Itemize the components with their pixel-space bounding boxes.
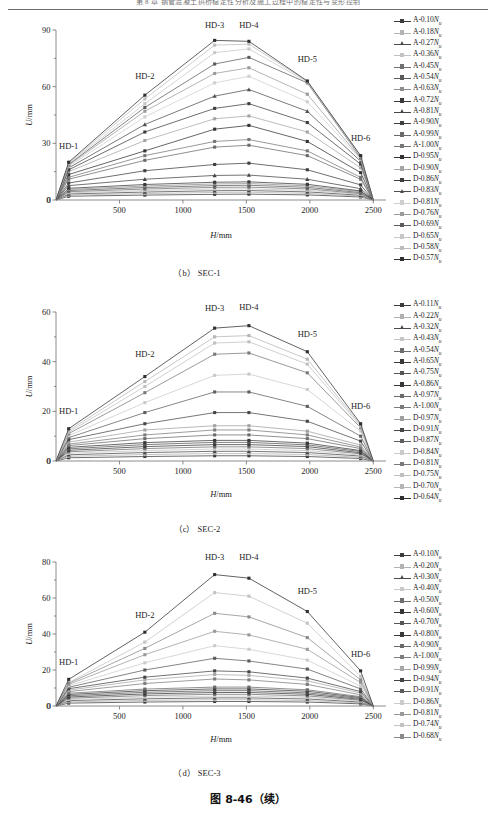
- legend-item[interactable]: A-0.54Nu: [394, 345, 494, 356]
- x-tick-label: 500: [113, 205, 126, 215]
- legend-item[interactable]: D-0.95Nu: [394, 152, 494, 163]
- legend-item[interactable]: A-0.90Nu: [394, 118, 494, 129]
- legend-item[interactable]: A-0.11Nu: [394, 300, 494, 311]
- legend-item[interactable]: A-0.36Nu: [394, 50, 494, 61]
- plot-area-sec-3: 02040608050010001500200025000HD-1HD-2HD-…: [14, 548, 394, 776]
- legend-item[interactable]: A-0.54Nu: [394, 73, 494, 84]
- y-axis-title: U/mm: [24, 104, 34, 126]
- legend-item[interactable]: A-0.10Nu: [394, 550, 494, 561]
- point-label-hd-5: HD-5: [298, 329, 317, 339]
- legend-item[interactable]: D-0.81Nu: [394, 459, 494, 470]
- series-line: [56, 66, 373, 200]
- legend-item[interactable]: D-0.65Nu: [394, 232, 494, 243]
- legend-marker-icon: [394, 653, 411, 662]
- legend-item[interactable]: A-0.50Nu: [394, 595, 494, 606]
- point-label-hd-4: HD-4: [239, 20, 259, 30]
- legend-item[interactable]: A-0.72Nu: [394, 95, 494, 106]
- legend-marker-icon: [394, 63, 411, 72]
- x-tick-label: 1500: [238, 466, 255, 476]
- legend-item[interactable]: A-0.60Nu: [394, 607, 494, 618]
- legend-marker-icon: [394, 119, 411, 128]
- axes: [56, 30, 386, 200]
- legend-marker-icon: [394, 74, 411, 83]
- legend-marker-icon: [394, 471, 411, 480]
- y-axis-title: U/mm: [24, 623, 34, 645]
- legend-item[interactable]: A-0.75Nu: [394, 368, 494, 379]
- running-head: 第 8 章 钢管混凝土拱桥稳定性分析及施工过程中的稳定性与变形控制: [0, 0, 496, 12]
- legend-item[interactable]: D-0.76Nu: [394, 209, 494, 220]
- legend-item[interactable]: A-0.97Nu: [394, 391, 494, 402]
- point-label-hd-3: HD-3: [205, 20, 224, 30]
- legend-item[interactable]: A-0.81Nu: [394, 107, 494, 118]
- legend-marker-icon: [394, 437, 411, 446]
- legend-item[interactable]: A-0.43Nu: [394, 334, 494, 345]
- legend-item[interactable]: A-0.86Nu: [394, 379, 494, 390]
- legend-marker-icon: [394, 642, 411, 651]
- legend-item[interactable]: D-0.94Nu: [394, 675, 494, 686]
- y-tick-label: 40: [42, 629, 51, 639]
- legend-item[interactable]: A-0.10Nu: [394, 16, 494, 27]
- legend-marker-icon: [394, 221, 411, 230]
- chart-svg-b: 030609050010001500200025000HD-1HD-2HD-3H…: [14, 14, 394, 244]
- legend-item[interactable]: D-0.86Nu: [394, 175, 494, 186]
- legend-item[interactable]: D-0.75Nu: [394, 470, 494, 481]
- legend-item[interactable]: D-0.87Nu: [394, 436, 494, 447]
- legend-item[interactable]: A-0.99Nu: [394, 129, 494, 140]
- legend-item[interactable]: A-0.40Nu: [394, 584, 494, 595]
- point-label-hd-3: HD-3: [205, 552, 224, 562]
- legend-item[interactable]: D-0.99Nu: [394, 663, 494, 674]
- legend-item[interactable]: D-0.68Nu: [394, 732, 494, 743]
- x-axis-title: H/mm: [209, 230, 232, 240]
- legend-item[interactable]: D-0.86Nu: [394, 697, 494, 708]
- legend-item[interactable]: D-0.83Nu: [394, 186, 494, 197]
- figure-number: 图 8-46（续）: [0, 790, 496, 806]
- legend-list: A-0.11NuA-0.22NuA-0.32NuA-0.43NuA-0.54Nu…: [394, 300, 494, 504]
- legend-item[interactable]: A-0.80Nu: [394, 629, 494, 640]
- chart-block-sec-1: 030609050010001500200025000HD-1HD-2HD-3H…: [0, 14, 496, 298]
- legend-item[interactable]: A-0.18Nu: [394, 27, 494, 38]
- legend-item[interactable]: A-0.32Nu: [394, 323, 494, 334]
- legend-item[interactable]: A-0.63Nu: [394, 84, 494, 95]
- legend-marker-icon: [394, 665, 411, 674]
- legend-item[interactable]: D-0.81Nu: [394, 198, 494, 209]
- legend-item[interactable]: A-0.65Nu: [394, 357, 494, 368]
- legend-marker-icon: [394, 494, 411, 503]
- x-tick-label: 1000: [174, 466, 191, 476]
- legend-item[interactable]: D-0.57Nu: [394, 254, 494, 265]
- legend-item[interactable]: A-1.00Nu: [394, 652, 494, 663]
- y-tick-label: 60: [42, 593, 51, 603]
- legend-item[interactable]: D-0.91Nu: [394, 686, 494, 697]
- legend-item[interactable]: A-1.00Nu: [394, 402, 494, 413]
- legend-item[interactable]: D-0.90Nu: [394, 163, 494, 174]
- legend-item[interactable]: A-0.27Nu: [394, 39, 494, 50]
- legend-item[interactable]: A-0.30Nu: [394, 573, 494, 584]
- running-head-rule: [8, 9, 488, 10]
- legend-item[interactable]: D-0.84Nu: [394, 447, 494, 458]
- legend-marker-icon: [394, 108, 411, 117]
- legend-item[interactable]: A-0.45Nu: [394, 61, 494, 72]
- legend-item[interactable]: D-0.58Nu: [394, 243, 494, 254]
- legend-item[interactable]: A-1.00Nu: [394, 141, 494, 152]
- legend-item[interactable]: D-0.74Nu: [394, 720, 494, 731]
- legend-item[interactable]: D-0.81Nu: [394, 709, 494, 720]
- legend-marker-icon: [394, 676, 411, 685]
- legend-sec-3: A-0.10NuA-0.20NuA-0.30NuA-0.40NuA-0.50Nu…: [394, 548, 494, 776]
- legend-item[interactable]: A-0.22Nu: [394, 311, 494, 322]
- legend-label: D-0.57Nu: [413, 252, 441, 267]
- legend-item[interactable]: A-0.70Nu: [394, 618, 494, 629]
- legend-item[interactable]: D-0.91Nu: [394, 425, 494, 436]
- legend-item[interactable]: A-0.20Nu: [394, 561, 494, 572]
- legend-item[interactable]: D-0.97Nu: [394, 413, 494, 424]
- point-label-hd-1: HD-1: [59, 657, 78, 667]
- point-label-hd-2: HD-2: [135, 349, 154, 359]
- plot-area-sec-2: 020406050010001500200025000HD-1HD-2HD-3H…: [14, 298, 394, 548]
- legend-list: A-0.10NuA-0.20NuA-0.30NuA-0.40NuA-0.50Nu…: [394, 550, 494, 743]
- legend-marker-icon: [394, 619, 411, 628]
- legend-item[interactable]: A-0.90Nu: [394, 641, 494, 652]
- legend-item[interactable]: D-0.64Nu: [394, 493, 494, 504]
- legend-item[interactable]: D-0.70Nu: [394, 482, 494, 493]
- legend-item[interactable]: D-0.69Nu: [394, 220, 494, 231]
- legend-marker-icon: [394, 97, 411, 106]
- running-head-text: 第 8 章 钢管混凝土拱桥稳定性分析及施工过程中的稳定性与变形控制: [136, 0, 361, 6]
- legend-marker-icon: [394, 381, 411, 390]
